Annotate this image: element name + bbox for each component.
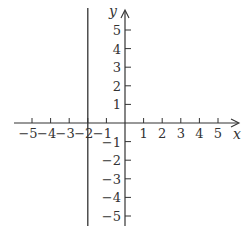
plot-area: −5−4−3−2−112345 54321−1−2−3−4−5 x y (0, 0, 245, 226)
x-tick: 1 (139, 118, 147, 141)
y-tick: −4 (102, 190, 131, 205)
y-tick: 4 (113, 42, 131, 57)
y-tick: −5 (102, 209, 131, 224)
x-tick: −4 (37, 118, 56, 141)
x-tick: 2 (158, 118, 166, 141)
x-tick-label: −3 (56, 126, 75, 141)
x-tick-label: 5 (214, 126, 222, 141)
x-tick: −2 (74, 118, 93, 141)
x-tick: 3 (177, 118, 185, 141)
y-tick: −3 (102, 172, 131, 187)
y-tick: 5 (113, 23, 131, 38)
y-tick: 2 (113, 79, 131, 94)
y-tick: −2 (102, 153, 131, 168)
y-tick-label: −1 (102, 135, 121, 150)
x-axis-label: x (233, 126, 241, 142)
y-tick-label: 4 (113, 42, 121, 57)
y-axis-label: y (108, 3, 118, 19)
x-tick-label: −4 (37, 126, 56, 141)
x-tick-label: 4 (195, 126, 203, 141)
coordinate-plane: −5−4−3−2−112345 54321−1−2−3−4−5 x y (0, 0, 245, 226)
x-tick-label: 2 (158, 126, 166, 141)
y-tick-label: −5 (102, 209, 121, 224)
y-tick-label: −2 (102, 153, 121, 168)
x-tick: 4 (195, 118, 203, 141)
x-tick-label: −5 (18, 126, 37, 141)
x-tick: −3 (56, 118, 75, 141)
y-tick: 3 (113, 60, 131, 75)
y-tick: 1 (113, 97, 131, 112)
y-tick-label: −3 (102, 172, 121, 187)
y-tick-label: 5 (113, 23, 121, 38)
y-axis (121, 10, 129, 226)
y-tick-label: 2 (113, 79, 121, 94)
x-tick-label: 1 (139, 126, 147, 141)
x-tick-label: −2 (74, 126, 93, 141)
y-tick: −1 (102, 135, 131, 150)
y-tick-label: 1 (113, 97, 121, 112)
x-tick: 5 (214, 118, 222, 141)
y-tick-label: 3 (113, 60, 121, 75)
y-tick-label: −4 (102, 190, 121, 205)
x-tick-label: 3 (177, 126, 185, 141)
x-tick: −5 (18, 118, 37, 141)
